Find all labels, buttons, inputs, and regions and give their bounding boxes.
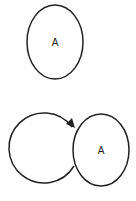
- top-node-label: A: [52, 37, 59, 48]
- arrowhead-icon: [66, 118, 75, 128]
- top-node: A: [27, 5, 83, 79]
- diagram-canvas: A A: [0, 0, 136, 201]
- bottom-left-node: [9, 113, 74, 183]
- bottom-right-node: A: [73, 114, 129, 186]
- bottom-right-node-label: A: [98, 145, 105, 156]
